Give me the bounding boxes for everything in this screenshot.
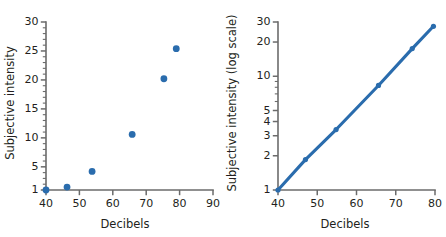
- data-point: [303, 157, 308, 162]
- x-tick-label: 40: [271, 197, 285, 210]
- data-line: [278, 26, 433, 190]
- x-axis-tick-labels: 405060708090: [39, 197, 220, 210]
- x-tick-label: 70: [139, 197, 153, 210]
- x-tick-label: 90: [206, 197, 220, 210]
- y-tick-label: 30: [257, 15, 271, 28]
- data-point: [275, 187, 280, 192]
- y-tick-label: 20: [25, 73, 39, 86]
- y-tick-label: 25: [25, 44, 39, 57]
- data-point: [161, 75, 168, 82]
- scatter-point-group: [43, 45, 180, 193]
- x-tick-label: 50: [72, 197, 86, 210]
- data-point: [431, 24, 436, 29]
- y-tick-label: 10: [25, 131, 39, 144]
- two-panel-chart-figure: 151015202530 405060708090 Decibels Subje…: [0, 0, 446, 237]
- y-tick-label: 20: [257, 35, 271, 48]
- y-tick-label: 1: [264, 183, 271, 196]
- y-tick-label: 3: [264, 129, 271, 142]
- y-tick-label: 15: [25, 102, 39, 115]
- data-point: [129, 131, 136, 138]
- x-axis-title: Decibels: [320, 217, 369, 231]
- y-axis-tick-labels: 12345102030: [257, 15, 271, 196]
- y-axis-tick-labels: 151015202530: [25, 15, 39, 196]
- data-point: [89, 168, 96, 175]
- x-tick-label: 70: [389, 197, 403, 210]
- y-axis-title: Subjective intensity: [3, 46, 17, 160]
- x-tick-label: 40: [39, 197, 53, 210]
- y-tick-label: 10: [257, 69, 271, 82]
- data-point: [64, 184, 71, 191]
- data-point: [376, 83, 381, 88]
- x-tick-label: 80: [173, 197, 187, 210]
- y-tick-label: 5: [264, 104, 271, 117]
- linear-panel-svg: 151015202530 405060708090 Decibels Subje…: [0, 0, 223, 237]
- x-tick-label: 60: [350, 197, 364, 210]
- linear-scatter-panel: 151015202530 405060708090 Decibels Subje…: [0, 0, 223, 237]
- y-tick-label: 1: [32, 183, 39, 196]
- x-tick-label: 60: [106, 197, 120, 210]
- y-tick-label: 2: [264, 149, 271, 162]
- y-tick-label: 5: [32, 160, 39, 173]
- x-axis-title: Decibels: [100, 217, 149, 231]
- data-point: [173, 45, 180, 52]
- y-tick-label: 30: [25, 15, 39, 28]
- data-point: [43, 187, 50, 194]
- linear-axes-group: [46, 22, 213, 190]
- log-line-panel: 12345102030 4050607080 Decibels Subjecti…: [223, 0, 446, 237]
- y-axis-title: Subjective intensity (log scale): [225, 14, 239, 191]
- log-panel-svg: 12345102030 4050607080 Decibels Subjecti…: [223, 0, 446, 237]
- x-tick-label: 50: [310, 197, 324, 210]
- x-tick-label: 80: [428, 197, 442, 210]
- data-point: [333, 127, 338, 132]
- x-axis-tick-labels: 4050607080: [271, 197, 442, 210]
- data-point: [410, 46, 415, 51]
